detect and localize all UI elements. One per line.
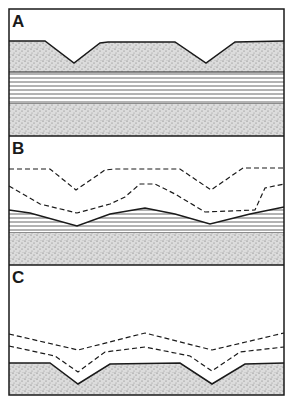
panel-b	[9, 168, 284, 265]
panel-b-upper-dashed-surface	[9, 168, 284, 190]
panel-label-b: B	[12, 140, 24, 157]
diagram-canvas	[0, 0, 295, 407]
panel-label-a: A	[12, 13, 24, 30]
panel-a-lower-stipple-layer	[9, 104, 284, 136]
panel-b-laminated-layer	[9, 207, 284, 233]
panel-c-stipple-layer	[9, 363, 284, 395]
panel-b-lower-stipple-layer	[9, 233, 284, 265]
panel-c-upper-dashed-surface	[9, 333, 284, 350]
panel-a-laminated-layer	[9, 72, 284, 104]
panel-label-c: C	[12, 269, 24, 286]
panel-a	[9, 41, 284, 136]
panel-c	[9, 333, 284, 395]
